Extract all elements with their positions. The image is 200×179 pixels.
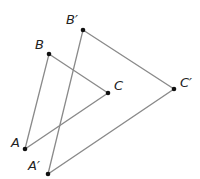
point-Bprime xyxy=(81,28,86,33)
vertex-label: B xyxy=(35,37,44,52)
point-B xyxy=(47,52,52,57)
vertex-label: B′ xyxy=(66,12,78,27)
triangle-image xyxy=(48,30,174,174)
diagram-svg: ABCA′B′C′ xyxy=(0,0,200,179)
vertex-label: C xyxy=(114,78,124,93)
point-A xyxy=(23,147,28,152)
vertex-label: C′ xyxy=(180,75,192,90)
vertex-label: A xyxy=(10,135,20,150)
point-Aprime xyxy=(46,172,51,177)
point-C xyxy=(106,91,111,96)
translation-diagram: ABCA′B′C′ xyxy=(0,0,200,179)
triangle-original xyxy=(25,54,108,149)
point-Cprime xyxy=(172,87,177,92)
vertex-label: A′ xyxy=(27,158,40,173)
